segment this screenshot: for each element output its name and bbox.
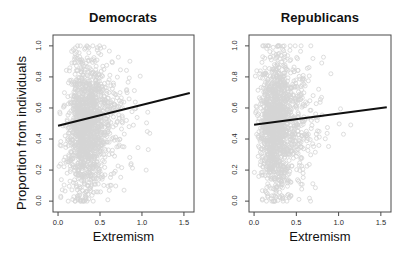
- y-tick-label-republicans: 0.6: [230, 98, 239, 116]
- x-tick-label-democrats: 0.0: [46, 218, 70, 227]
- figure-canvas: Democrats Republicans Extremism Extremis…: [0, 0, 407, 256]
- y-tick-label-democrats: 0.0: [34, 192, 43, 210]
- x-axis-label-republicans: Extremism: [249, 229, 391, 244]
- y-tick-label-democrats: 0.4: [34, 130, 43, 148]
- y-tick-label-republicans: 1.0: [230, 36, 239, 54]
- y-axis-label: Proportion from individuals: [14, 56, 29, 210]
- x-tick-label-republicans: 0.5: [284, 218, 308, 227]
- x-tick-label-democrats: 1.0: [130, 218, 154, 227]
- y-tick-label-republicans: 0.2: [230, 161, 239, 179]
- y-tick-label-republicans: 0.4: [230, 130, 239, 148]
- y-tick-label-democrats: 1.0: [34, 36, 43, 54]
- y-tick-label-democrats: 0.2: [34, 161, 43, 179]
- x-axis-label-democrats: Extremism: [53, 229, 194, 244]
- x-tick-label-republicans: 0.0: [242, 218, 266, 227]
- y-tick-label-democrats: 0.8: [34, 67, 43, 85]
- panel-republicans: [245, 35, 391, 216]
- y-tick-label-republicans: 0.0: [230, 192, 239, 210]
- x-tick-label-democrats: 1.5: [172, 218, 196, 227]
- x-tick-label-republicans: 1.5: [369, 218, 393, 227]
- panel-title-republicans: Republicans: [196, 10, 407, 25]
- panel-democrats: [49, 35, 194, 216]
- x-tick-label-democrats: 0.5: [88, 218, 112, 227]
- y-tick-label-republicans: 0.8: [230, 67, 239, 85]
- y-tick-label-democrats: 0.6: [34, 98, 43, 116]
- x-tick-label-republicans: 1.0: [327, 218, 351, 227]
